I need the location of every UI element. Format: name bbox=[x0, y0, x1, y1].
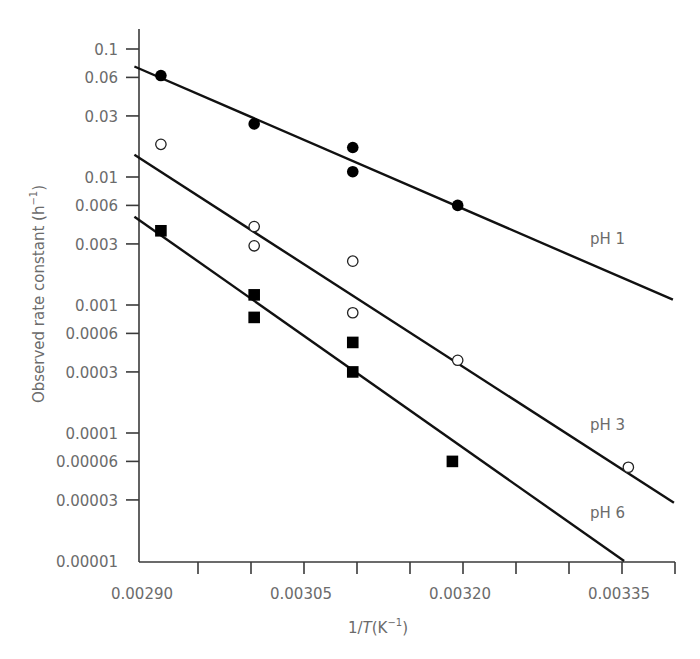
open-circle-marker bbox=[249, 221, 259, 231]
filled-circle-marker bbox=[347, 142, 359, 154]
open-circle-marker bbox=[249, 241, 259, 251]
filled-circle-marker bbox=[452, 200, 464, 212]
series-labels: pH 1pH 3pH 6 bbox=[590, 230, 625, 522]
filled-square-marker bbox=[155, 225, 167, 237]
x-tick-label: 0.00290 bbox=[111, 585, 173, 603]
y-tick-label: 0.06 bbox=[85, 69, 118, 87]
label-ph-6: pH 6 bbox=[590, 504, 625, 522]
axes: 0.10.060.030.010.0060.0030.0010.00060.00… bbox=[56, 29, 675, 603]
label-ph-3: pH 3 bbox=[590, 416, 625, 434]
y-axis-title: Observed rate constant (h−1) bbox=[28, 185, 48, 403]
x-tick-label: 0.00335 bbox=[588, 585, 650, 603]
open-circle-marker bbox=[156, 139, 166, 149]
filled-circle-marker bbox=[347, 166, 359, 178]
y-tick-label: 0.0003 bbox=[66, 364, 119, 382]
y-tick-label: 0.001 bbox=[75, 297, 118, 315]
y-ticks: 0.10.060.030.010.0060.0030.0010.00060.00… bbox=[56, 41, 139, 571]
filled-square-marker bbox=[248, 312, 260, 324]
y-tick-label: 0.0006 bbox=[66, 325, 119, 343]
series-ph-3 bbox=[156, 139, 634, 472]
y-tick-label: 0.1 bbox=[94, 41, 118, 59]
arrhenius-chart: 0.10.060.030.010.0060.0030.0010.00060.00… bbox=[0, 0, 700, 659]
open-circle-marker bbox=[453, 355, 463, 365]
fit-line-ph-3 bbox=[134, 155, 674, 503]
fit-line-ph-6 bbox=[134, 217, 624, 561]
x-tick-label: 0.00305 bbox=[270, 585, 332, 603]
x-tick-label: 0.00320 bbox=[429, 585, 491, 603]
y-tick-label: 0.006 bbox=[75, 197, 118, 215]
filled-circle-marker bbox=[248, 118, 260, 130]
y-tick-label: 0.003 bbox=[75, 236, 118, 254]
filled-square-marker bbox=[447, 456, 459, 468]
y-tick-label: 0.03 bbox=[85, 108, 118, 126]
label-ph-1: pH 1 bbox=[590, 230, 625, 248]
y-tick-label: 0.0001 bbox=[66, 425, 119, 443]
filled-square-marker bbox=[347, 366, 359, 378]
fit-line-ph-1 bbox=[134, 66, 672, 299]
open-circle-marker bbox=[348, 256, 358, 266]
open-circle-marker bbox=[348, 308, 358, 318]
filled-circle-marker bbox=[155, 70, 167, 82]
y-tick-label: 0.01 bbox=[85, 169, 118, 187]
y-tick-label: 0.00003 bbox=[56, 492, 118, 510]
y-tick-label: 0.00001 bbox=[56, 553, 118, 571]
filled-square-marker bbox=[347, 337, 359, 349]
y-tick-label: 0.00006 bbox=[56, 453, 118, 471]
data-markers bbox=[155, 70, 633, 473]
series-ph-6 bbox=[155, 225, 458, 467]
fit-lines bbox=[134, 66, 674, 561]
x-axis-title: 1/T(K−1) bbox=[348, 617, 408, 637]
filled-square-marker bbox=[248, 289, 260, 301]
x-ticks: 0.002900.003050.003200.00335 bbox=[111, 562, 675, 603]
open-circle-marker bbox=[623, 462, 633, 472]
